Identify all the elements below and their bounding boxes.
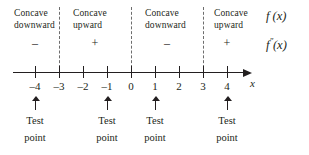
test-point-label-neg4: Test point [10, 112, 60, 146]
tick-mark-neg2 [83, 66, 84, 78]
tick-label-0: 0 [120, 81, 142, 92]
tick-mark-neg1 [107, 66, 108, 78]
tick-mark-3 [203, 66, 204, 78]
number-line-axis [13, 72, 245, 73]
tick-mark-neg4 [35, 66, 36, 78]
interval-4-sign: + [217, 37, 237, 49]
interval-3-concavity-line1: Concave [145, 8, 186, 20]
arrow-shaft [107, 100, 108, 110]
test-point-label-neg4-line2: point [10, 129, 60, 146]
arrow-shaft [35, 100, 36, 110]
test-point-arrow-4 [223, 96, 232, 111]
interval-3-concavity-line2: downward [145, 20, 186, 32]
interval-1-concavity-line2: downward [14, 20, 55, 32]
tick-label-1: 1 [144, 81, 166, 92]
tick-label-4: 4 [216, 81, 238, 92]
interval-4-concavity-line2: upward [214, 20, 248, 32]
interval-2-concavity-line2: upward [73, 20, 107, 32]
interval-1-sign: – [25, 37, 45, 49]
arrow-shaft [155, 100, 156, 110]
axis-arrowhead-icon [243, 69, 252, 77]
boundary-divider-at-neg3 [59, 7, 60, 68]
interval-description-3: Concave downward [145, 8, 186, 31]
tick-label-neg2: –2 [72, 81, 94, 92]
interval-4-concavity-line1: Concave [214, 8, 248, 20]
concavity-number-line-figure: Concave downward Concave upward Concave … [0, 0, 309, 155]
tick-label-neg4: –4 [24, 81, 46, 92]
test-point-label-neg1-line2: point [82, 129, 132, 146]
interval-description-4: Concave upward [214, 8, 248, 31]
tick-label-2: 2 [168, 81, 190, 92]
axis-variable-label: x [250, 78, 255, 89]
row-label-function: f (x) [266, 10, 286, 23]
tick-mark-neg3 [59, 66, 60, 78]
test-point-label-4: Test point [202, 112, 252, 146]
boundary-divider-at-3 [203, 7, 204, 68]
arrow-shaft [227, 100, 228, 110]
tick-label-neg1: –1 [96, 81, 118, 92]
test-point-label-1-line2: point [130, 129, 180, 146]
interval-description-2: Concave upward [73, 8, 107, 31]
row-label-second-derivative: f″(x) [266, 35, 287, 52]
interval-2-sign: + [85, 37, 105, 49]
boundary-divider-at-0 [131, 7, 132, 68]
test-point-label-1-line1: Test [130, 112, 180, 129]
test-point-label-1: Test point [130, 112, 180, 146]
tick-label-3: 3 [192, 81, 214, 92]
test-point-label-neg4-line1: Test [10, 112, 60, 129]
test-point-arrow-1 [151, 96, 160, 111]
second-derivative-arg: (x) [273, 38, 287, 52]
interval-2-concavity-line1: Concave [73, 8, 107, 20]
test-point-label-4-line2: point [202, 129, 252, 146]
interval-3-sign: – [157, 37, 177, 49]
tick-label-neg3: –3 [48, 81, 70, 92]
test-point-label-neg1-line1: Test [82, 112, 132, 129]
test-point-arrow-neg4 [31, 96, 40, 111]
tick-mark-2 [179, 66, 180, 78]
test-point-label-4-line1: Test [202, 112, 252, 129]
tick-mark-4 [227, 66, 228, 78]
interval-1-concavity-line1: Concave [14, 8, 55, 20]
interval-description-1: Concave downward [14, 8, 55, 31]
tick-mark-1 [155, 66, 156, 78]
test-point-arrow-neg1 [103, 96, 112, 111]
tick-mark-0 [131, 66, 132, 78]
test-point-label-neg1: Test point [82, 112, 132, 146]
